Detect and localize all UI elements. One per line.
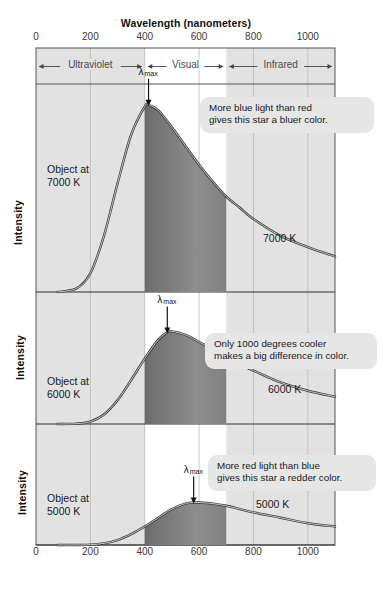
y-axis-label-3: Intensity (16, 470, 28, 515)
lambda-max-label-1: λmax (139, 66, 158, 77)
object-temperature-label-2: Object at 6000 K (47, 375, 89, 400)
band-label-visual: Visual (169, 59, 202, 70)
y-axis-label-2: Intensity (14, 335, 26, 380)
lambda-subscript: max (162, 298, 176, 305)
lambda-max-label-3: λmax (184, 464, 203, 475)
object-temperature-label-1: Object at 7000 K (47, 163, 89, 188)
lambda-symbol: λ (184, 464, 189, 475)
curve-temperature-label-3: 5000 K (256, 498, 289, 510)
band-label-ultraviolet: Ultraviolet (65, 59, 115, 70)
curve-temperature-label-2: 6000 K (268, 383, 301, 395)
lambda-subscript: max (189, 468, 203, 475)
callout-3: More red light than blue gives this star… (208, 455, 376, 491)
y-axis-label-1: Intensity (12, 200, 24, 245)
callout-2: Only 1000 degrees cooler makes a big dif… (205, 333, 377, 369)
lambda-max-label-2: λmax (157, 294, 176, 305)
object-temperature-label-3: Object at 5000 K (47, 492, 89, 517)
blackbody-radiation-figure: Wavelength (nanometers) 0200400600800100… (0, 0, 387, 589)
callout-1: More blue light than red gives this star… (200, 97, 374, 133)
curve-temperature-label-1: 7000 K (263, 232, 296, 244)
lambda-symbol: λ (139, 66, 144, 77)
band-label-infrared: Infrared (260, 59, 300, 70)
lambda-subscript: max (144, 70, 158, 77)
